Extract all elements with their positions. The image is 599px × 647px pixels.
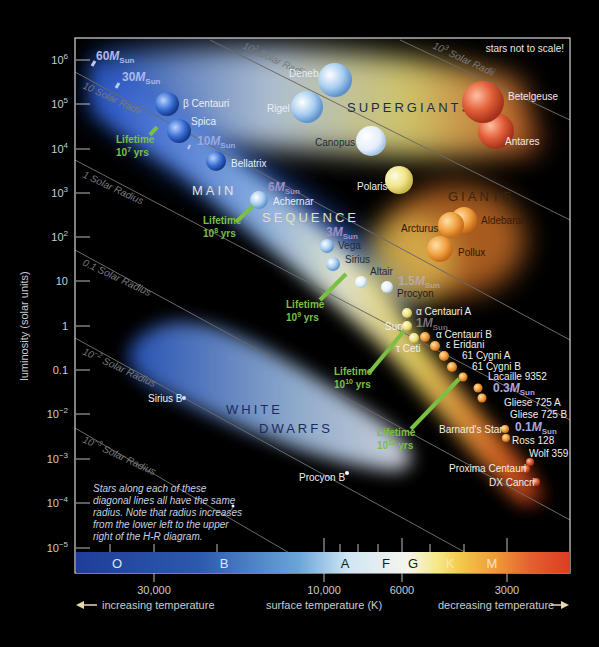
svg-text:decreasing temperature: decreasing temperature bbox=[438, 599, 554, 611]
arrow-left-icon bbox=[76, 601, 84, 609]
svg-text:106: 106 bbox=[51, 52, 68, 66]
svg-text:Lifetime: Lifetime bbox=[116, 134, 155, 145]
increasing-temperature-note: increasing temperature bbox=[76, 599, 215, 611]
svg-text:0.1: 0.1 bbox=[53, 364, 68, 376]
main-label: MAIN bbox=[192, 183, 237, 198]
star-betelgeuse bbox=[462, 81, 504, 123]
svg-text:3000: 3000 bbox=[495, 584, 519, 596]
svg-text:Stars along each of these: Stars along each of these bbox=[93, 483, 207, 494]
star-beta-centauri bbox=[155, 92, 179, 116]
svg-text:Wolf 359: Wolf 359 bbox=[529, 448, 569, 459]
svg-text:from the lower left to the upp: from the lower left to the upper bbox=[93, 519, 229, 530]
svg-text:104: 104 bbox=[51, 141, 68, 155]
star-wolf-359 bbox=[526, 458, 534, 466]
svg-text:10: 10 bbox=[56, 275, 68, 287]
svg-text:Rigel: Rigel bbox=[267, 103, 290, 114]
star-altair bbox=[355, 276, 367, 288]
svg-text:10−3: 10−3 bbox=[47, 451, 69, 465]
svg-text:Proxima Centauri: Proxima Centauri bbox=[449, 463, 526, 474]
svg-text:Lifetime: Lifetime bbox=[203, 215, 242, 226]
star-polaris bbox=[385, 166, 413, 194]
spectral-class-m: M bbox=[487, 556, 498, 571]
svg-text:109 yrs: 109 yrs bbox=[286, 311, 319, 323]
decreasing-temperature-note: decreasing temperature bbox=[438, 599, 569, 611]
svg-text:right of the H-R diagram.: right of the H-R diagram. bbox=[93, 531, 203, 542]
svg-text:Canopus: Canopus bbox=[315, 137, 355, 148]
svg-text:β Centauri: β Centauri bbox=[183, 98, 229, 109]
svg-text:Achernar: Achernar bbox=[273, 196, 314, 207]
svg-text:DX Cancri: DX Cancri bbox=[489, 477, 535, 488]
spectral-class-f: F bbox=[382, 556, 390, 571]
star-sirius bbox=[326, 257, 340, 271]
svg-text:6000: 6000 bbox=[390, 584, 414, 596]
svg-text:Sun: Sun bbox=[385, 321, 403, 332]
star-sun bbox=[402, 321, 412, 331]
svg-text:105: 105 bbox=[51, 96, 68, 110]
svg-text:Spica: Spica bbox=[191, 116, 216, 127]
svg-text:Pollux: Pollux bbox=[458, 247, 485, 258]
star-ross-128 bbox=[502, 434, 510, 442]
dwarfs-label: DWARFS bbox=[259, 421, 333, 436]
star-pollux bbox=[427, 236, 453, 262]
not-to-scale-note: stars not to scale! bbox=[486, 43, 564, 54]
svg-text:10−4: 10−4 bbox=[47, 495, 69, 509]
svg-text:Vega: Vega bbox=[338, 240, 361, 251]
svg-text:Lifetime: Lifetime bbox=[334, 366, 373, 377]
star-sirius-b bbox=[182, 396, 186, 400]
supergiants-label: SUPERGIANTS bbox=[347, 100, 473, 115]
svg-text:Gliese 725 B: Gliese 725 B bbox=[510, 409, 568, 420]
giants-label: GIANTS bbox=[448, 189, 514, 204]
spectral-class-g: G bbox=[408, 556, 418, 571]
svg-text:108 yrs: 108 yrs bbox=[203, 227, 236, 239]
star-procyon bbox=[381, 281, 393, 293]
svg-text:diagonal lines all have the sa: diagonal lines all have the same bbox=[93, 495, 236, 506]
spectral-class-k: K bbox=[446, 556, 455, 571]
svg-text:103: 103 bbox=[51, 185, 68, 199]
star-arcturus bbox=[438, 212, 464, 238]
svg-text:radius. Note that radius incre: radius. Note that radius increases bbox=[93, 507, 242, 518]
x-axis-label: surface temperature (K) bbox=[266, 599, 382, 611]
arrow-right-icon bbox=[561, 601, 569, 609]
svg-text:1: 1 bbox=[62, 320, 68, 332]
spectral-class-b: B bbox=[220, 556, 229, 571]
svg-text:1010 yrs: 1010 yrs bbox=[334, 378, 371, 390]
star-canopus bbox=[356, 126, 386, 156]
svg-text:1011 yrs: 1011 yrs bbox=[377, 439, 414, 451]
star-vega bbox=[320, 239, 334, 253]
svg-text:Procyon B: Procyon B bbox=[299, 472, 345, 483]
star-gliese-725-b bbox=[478, 394, 487, 403]
svg-text:30,000: 30,000 bbox=[137, 584, 171, 596]
svg-text:Arcturus: Arcturus bbox=[401, 223, 438, 234]
svg-text:Sirius B: Sirius B bbox=[148, 393, 183, 404]
svg-text:Polaris: Polaris bbox=[357, 181, 388, 192]
spectral-class-a: A bbox=[341, 556, 350, 571]
svg-text:Ross 128: Ross 128 bbox=[512, 435, 555, 446]
svg-text:10−5: 10−5 bbox=[47, 540, 69, 554]
star-alpha-centauri-a bbox=[402, 308, 412, 318]
svg-text:10−2: 10−2 bbox=[47, 406, 69, 420]
star-alpha-centauri-b bbox=[420, 332, 430, 342]
star-tau-ceti bbox=[409, 333, 419, 343]
hr-chart-svg: 103 Solar Radii 102 Solar Radii 10 Solar… bbox=[0, 0, 599, 647]
sequence-label: SEQUENCE bbox=[262, 210, 359, 225]
svg-text:107 yrs: 107 yrs bbox=[116, 146, 149, 158]
svg-text:Barnard's Star: Barnard's Star bbox=[439, 424, 503, 435]
svg-text:Antares: Antares bbox=[505, 136, 539, 147]
white-label: WHITE bbox=[226, 402, 283, 417]
y-axis-tick-labels: 106 105 104 103 102 10 1 0.1 10−2 10−3 1… bbox=[47, 52, 69, 554]
svg-text:10,000: 10,000 bbox=[307, 584, 341, 596]
svg-text:Altair: Altair bbox=[370, 266, 393, 277]
star-gliese-725-a bbox=[474, 384, 483, 393]
svg-text:ε Eridani: ε Eridani bbox=[446, 339, 484, 350]
svg-text:Betelgeuse: Betelgeuse bbox=[508, 91, 558, 102]
star-epsilon-eridani bbox=[430, 341, 440, 351]
y-axis-label: luminosity (solar units) bbox=[4, 180, 34, 480]
svg-text:61 Cygni A: 61 Cygni A bbox=[462, 350, 511, 361]
hr-diagram: 103 Solar Radii 102 Solar Radii 10 Solar… bbox=[0, 0, 599, 647]
star-rigel bbox=[291, 91, 323, 123]
svg-text:increasing temperature: increasing temperature bbox=[102, 599, 215, 611]
star-deneb bbox=[318, 63, 352, 97]
svg-text:Lifetime: Lifetime bbox=[377, 427, 416, 438]
svg-text:Bellatrix: Bellatrix bbox=[231, 158, 267, 169]
svg-text:Deneb: Deneb bbox=[289, 68, 319, 79]
